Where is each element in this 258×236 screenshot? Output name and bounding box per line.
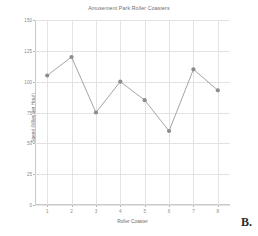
data-point-marker xyxy=(45,73,49,77)
y-tick-label: 150 xyxy=(24,18,32,23)
data-point-marker xyxy=(94,110,98,114)
y-tick-mark xyxy=(33,205,35,206)
y-tick-label: 125 xyxy=(24,48,32,53)
x-tick-mark xyxy=(72,205,73,207)
x-tick-mark xyxy=(145,205,146,207)
chart-title: Amusement Park Roller Coasters xyxy=(0,5,258,11)
x-tick-mark xyxy=(96,205,97,207)
x-tick-label: 7 xyxy=(192,209,195,214)
x-tick-mark xyxy=(169,205,170,207)
data-point-marker xyxy=(191,67,195,71)
chart-figure: Amusement Park Roller Coasters Speed (Mi… xyxy=(0,0,258,236)
x-tick-label: 3 xyxy=(95,209,98,214)
y-tick-label: 0 xyxy=(29,203,32,208)
x-tick-mark xyxy=(47,205,48,207)
series-markers xyxy=(45,55,220,133)
panel-label: B. xyxy=(241,215,252,230)
data-point-marker xyxy=(216,88,220,92)
y-tick-label: 100 xyxy=(24,79,32,84)
data-point-marker xyxy=(167,129,171,133)
x-tick-label: 1 xyxy=(46,209,49,214)
gridline-horizontal xyxy=(35,205,230,206)
x-tick-label: 2 xyxy=(70,209,73,214)
x-tick-label: 5 xyxy=(143,209,146,214)
x-axis-title: Roller Coaster xyxy=(35,219,230,224)
x-tick-label: 4 xyxy=(119,209,122,214)
x-tick-label: 6 xyxy=(168,209,171,214)
x-tick-label: 8 xyxy=(217,209,220,214)
data-series-line xyxy=(35,20,230,205)
data-point-marker xyxy=(69,55,73,59)
x-tick-mark xyxy=(218,205,219,207)
y-tick-label: 50 xyxy=(27,141,32,146)
y-tick-label: 25 xyxy=(27,172,32,177)
data-point-marker xyxy=(118,80,122,84)
y-tick-label: 75 xyxy=(27,110,32,115)
plot-area: 0255075100125150 12345678 xyxy=(35,20,230,205)
x-tick-mark xyxy=(193,205,194,207)
x-tick-mark xyxy=(120,205,121,207)
data-point-marker xyxy=(143,98,147,102)
